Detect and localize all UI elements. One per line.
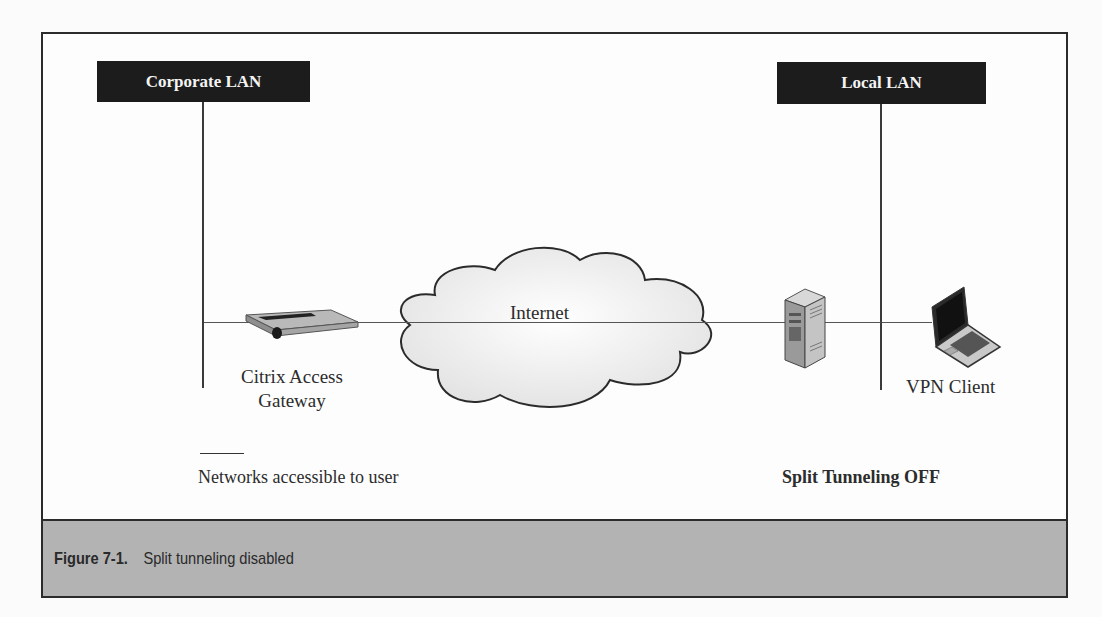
internet-label: Internet bbox=[510, 301, 569, 325]
vpn-client-label: VPN Client bbox=[906, 375, 995, 399]
legend-label: Networks accessible to user bbox=[198, 465, 398, 489]
split-tunneling-status: Split Tunneling OFF bbox=[782, 465, 940, 489]
gateway-label: Citrix Access Gateway bbox=[222, 365, 362, 413]
figure-caption-text: Split tunneling disabled bbox=[143, 549, 293, 568]
legend-line-swatch bbox=[200, 453, 244, 454]
laptop-icon bbox=[922, 285, 1002, 365]
figure-caption: Figure 7-1.Split tunneling disabled bbox=[54, 549, 294, 569]
local-lan-line bbox=[880, 104, 882, 390]
gateway-label-line1: Citrix Access bbox=[222, 365, 362, 389]
figure-number: Figure 7-1. bbox=[54, 549, 128, 568]
corporate-lan-line bbox=[202, 102, 204, 388]
local-lan-label: Local LAN bbox=[841, 73, 922, 93]
gateway-label-line2: Gateway bbox=[222, 389, 362, 413]
internet-cloud-icon bbox=[380, 240, 740, 420]
local-lan-box: Local LAN bbox=[777, 62, 986, 104]
corporate-lan-label: Corporate LAN bbox=[146, 72, 262, 92]
corporate-lan-box: Corporate LAN bbox=[97, 61, 310, 102]
server-icon bbox=[780, 285, 830, 370]
gateway-appliance-icon bbox=[236, 304, 366, 344]
